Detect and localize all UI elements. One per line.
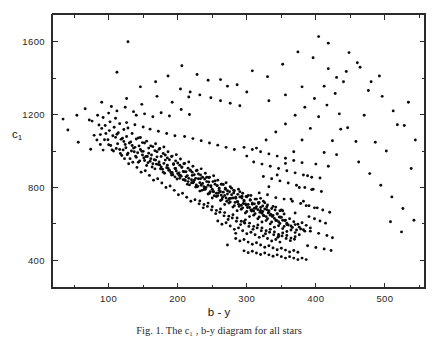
data-point <box>163 172 166 175</box>
data-point <box>293 238 296 241</box>
data-point <box>209 190 212 193</box>
data-point <box>115 147 118 150</box>
data-point <box>261 205 264 208</box>
data-point <box>301 257 304 260</box>
data-point <box>284 257 287 260</box>
data-point <box>292 150 295 153</box>
data-point <box>160 155 163 158</box>
data-point <box>303 106 306 109</box>
data-point <box>215 192 218 195</box>
data-point <box>269 165 272 168</box>
data-point <box>116 142 119 145</box>
data-point <box>121 137 124 140</box>
data-point <box>319 177 322 180</box>
data-point <box>160 182 163 185</box>
data-point <box>229 185 232 188</box>
data-point <box>108 129 111 132</box>
data-point <box>184 179 187 182</box>
data-point <box>273 230 276 233</box>
data-point <box>171 173 174 176</box>
data-point <box>285 169 288 172</box>
data-point <box>251 243 254 246</box>
data-point <box>241 197 244 200</box>
data-point <box>129 157 132 160</box>
data-point <box>167 150 170 153</box>
data-point <box>99 143 102 146</box>
data-point <box>233 228 236 231</box>
data-point <box>254 212 257 215</box>
data-point <box>169 185 172 188</box>
data-point <box>124 143 127 146</box>
data-point <box>211 180 214 183</box>
data-point <box>214 212 217 215</box>
data-point <box>188 183 191 186</box>
data-point <box>142 126 145 129</box>
data-point <box>93 134 96 137</box>
data-point <box>288 255 291 258</box>
data-point <box>239 223 242 226</box>
data-point <box>111 148 114 151</box>
data-point <box>305 224 308 227</box>
data-point <box>316 206 319 209</box>
data-point <box>284 162 287 165</box>
data-point <box>143 112 146 115</box>
data-point <box>330 249 333 252</box>
x-tick-label: 200 <box>169 293 186 304</box>
data-point <box>148 174 151 177</box>
data-point <box>137 136 140 139</box>
data-point <box>266 75 269 78</box>
x-tick-label: 100 <box>100 293 117 304</box>
data-point <box>171 101 174 104</box>
y-tick-label: 1600 <box>22 36 45 47</box>
data-points <box>62 35 417 261</box>
data-point <box>296 251 299 254</box>
data-point <box>359 66 362 69</box>
data-point <box>241 229 244 232</box>
data-point <box>320 190 323 193</box>
data-point <box>226 193 229 196</box>
data-point <box>249 194 252 197</box>
data-point <box>255 147 258 150</box>
data-point <box>168 115 171 118</box>
data-point <box>301 161 304 164</box>
data-point <box>213 194 216 197</box>
data-point <box>285 223 288 226</box>
data-point <box>223 211 226 214</box>
data-point <box>251 148 254 151</box>
data-point <box>312 56 315 59</box>
data-point <box>218 211 221 214</box>
data-point <box>122 148 125 151</box>
data-point <box>252 160 255 163</box>
data-point <box>339 128 342 131</box>
data-point <box>131 144 134 147</box>
data-point <box>133 150 136 153</box>
data-point <box>223 194 226 197</box>
data-point <box>374 141 377 144</box>
data-point <box>248 215 251 218</box>
data-point <box>127 127 130 130</box>
data-point <box>277 220 280 223</box>
data-point <box>251 250 254 253</box>
figure-container: 10020030040050040080012001600 c1 b - y F… <box>0 0 438 337</box>
data-point <box>276 253 279 256</box>
data-point <box>389 220 392 223</box>
y-tick-label: 800 <box>28 182 45 193</box>
data-point <box>244 202 247 205</box>
data-point <box>198 199 201 202</box>
data-point <box>240 204 243 207</box>
data-point <box>230 193 233 196</box>
data-point <box>229 102 232 105</box>
data-point <box>266 193 269 196</box>
data-point <box>263 252 266 255</box>
x-axis-label: b - y <box>0 306 438 318</box>
data-point <box>288 250 291 253</box>
data-point <box>197 177 200 180</box>
data-point <box>205 180 208 183</box>
data-point <box>414 139 417 142</box>
data-point <box>290 225 293 228</box>
data-point <box>147 147 150 150</box>
data-point <box>264 232 267 235</box>
data-point <box>155 163 158 166</box>
data-point <box>187 160 190 163</box>
data-point <box>200 139 203 142</box>
